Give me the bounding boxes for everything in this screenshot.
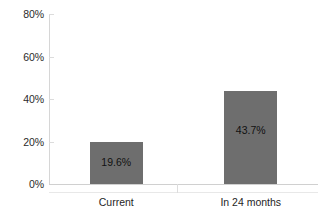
plot-area: 19.6% 43.7% [49,14,318,184]
x-axis-line [49,184,318,185]
x-axis-category-label-in-24-months: In 24 months [191,196,311,208]
bar-chart: 80% 60% 40% 20% 0% 19.6% 43.7% Current I… [0,0,326,216]
x-axis-category-divider [177,184,178,193]
x-axis-category-label-current: Current [56,196,176,208]
bar-in-24-months[interactable]: 43.7% [224,91,277,184]
y-axis-tick-label-40: 40% [0,94,44,105]
bar-value-label-in-24-months: 43.7% [224,125,277,136]
bar-current[interactable]: 19.6% [90,142,143,184]
bar-value-label-current: 19.6% [90,157,143,168]
y-axis-tick-label-80: 80% [0,9,44,20]
y-axis-tick-label-60: 60% [0,52,44,63]
y-axis-tick-label-20: 20% [0,137,44,148]
y-axis-tick-label-0: 0% [0,179,44,190]
y-axis: 80% 60% 40% 20% 0% [0,0,44,216]
x-axis-baseline-lower [49,192,318,193]
